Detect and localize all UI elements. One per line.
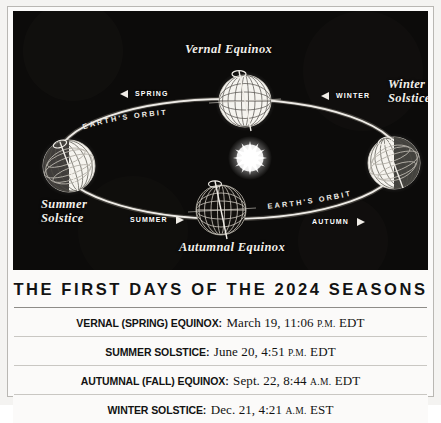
seasons-table: THE FIRST DAYS OF THE 2024 SEASONS VERNA… [13, 270, 428, 423]
sun-icon [228, 136, 272, 180]
table-title: THE FIRST DAYS OF THE 2024 SEASONS [13, 271, 428, 307]
season-label-spring: SPRING [135, 90, 168, 97]
label-autumnal-equinox: Autumnal Equinox [179, 241, 285, 255]
row-zone: EST [310, 402, 333, 417]
infographic-frame: EARTH'S ORBIT EARTH'S ORBIT Vernal Equin… [7, 6, 434, 397]
label-summer-solstice: Summer Solstice [41, 197, 87, 225]
row-label: AUTUMNAL (FALL) EQUINOX: [81, 375, 229, 387]
season-label-winter: WINTER [336, 92, 370, 99]
table-row: WINTER SOLSTICE: Dec. 21, 4:21 A.M. EST [13, 395, 428, 423]
row-value: Dec. 21, 4:21 A.M. EST [211, 402, 334, 417]
row-value: March 19, 11:06 P.M. EDT [226, 315, 364, 330]
table-row: AUTUMNAL (FALL) EQUINOX: Sept. 22, 8:44 … [13, 366, 428, 394]
row-date: Sept. 22, 8:44 [233, 373, 307, 388]
arrow-autumn-icon [357, 218, 365, 226]
row-date: June 20, 4:51 [214, 344, 285, 359]
row-meridiem: A.M. [285, 406, 306, 416]
row-value: Sept. 22, 8:44 A.M. EDT [233, 373, 360, 388]
globe-summer-solstice [38, 134, 99, 199]
row-meridiem: P.M. [317, 319, 336, 329]
row-zone: EDT [335, 373, 361, 388]
earth-orbit-diagram: EARTH'S ORBIT EARTH'S ORBIT Vernal Equin… [13, 11, 428, 270]
row-date: March 19, 11:06 [226, 315, 313, 330]
row-zone: EDT [339, 315, 365, 330]
season-label-autumn: AUTUMN [312, 218, 349, 225]
row-meridiem: A.M. [310, 377, 331, 387]
row-label: SUMMER SOLSTICE: [105, 346, 209, 358]
row-label: VERNAL (SPRING) EQUINOX: [76, 317, 222, 329]
label-winter-line-2: Solstice [388, 91, 428, 105]
label-winter-line-1: Winter [388, 77, 428, 91]
row-meridiem: P.M. [288, 348, 307, 358]
label-summer-line-2: Solstice [41, 211, 87, 225]
row-date: Dec. 21, 4:21 [211, 402, 282, 417]
label-summer-line-1: Summer [41, 197, 87, 211]
globe-autumnal-equinox [188, 181, 256, 239]
table-row: VERNAL (SPRING) EQUINOX: March 19, 11:06… [13, 308, 428, 336]
row-label: WINTER SOLSTICE: [108, 404, 207, 416]
arrow-spring-icon [120, 90, 128, 98]
arrow-winter-icon [321, 92, 329, 100]
label-winter-solstice: Winter Solstice [388, 77, 428, 105]
label-vernal-equinox: Vernal Equinox [185, 43, 272, 57]
globe-winter-solstice [363, 131, 424, 196]
season-label-summer: SUMMER [130, 216, 168, 223]
globe-vernal-equinox [209, 71, 281, 131]
row-zone: EDT [310, 344, 336, 359]
arrow-summer-icon [176, 216, 184, 224]
table-row: SUMMER SOLSTICE: June 20, 4:51 P.M. EDT [13, 337, 428, 365]
row-value: June 20, 4:51 P.M. EDT [214, 344, 336, 359]
